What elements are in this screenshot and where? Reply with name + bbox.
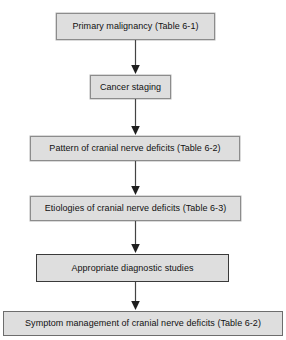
flow-node-label: Pattern of cranial nerve deficits (Table…: [49, 144, 220, 153]
flow-node-appropriate-diagnostic-studies[interactable]: Appropriate diagnostic studies: [36, 254, 229, 282]
flow-node-label: Cancer staging: [100, 83, 161, 92]
flow-node-label: Appropriate diagnostic studies: [71, 264, 193, 273]
flow-node-label: Etiologies of cranial nerve deficits (Ta…: [45, 204, 227, 213]
arrow-primary-malignancy-to-cancer-staging: [130, 40, 141, 75]
flow-node-etiologies-cranial-nerve-deficits[interactable]: Etiologies of cranial nerve deficits (Ta…: [30, 196, 241, 221]
arrow-cancer-staging-to-pattern: [130, 99, 141, 136]
flowchart-diagram: Primary malignancy (Table 6-1) Cancer st…: [0, 0, 286, 340]
flow-node-primary-malignancy[interactable]: Primary malignancy (Table 6-1): [56, 13, 215, 40]
arrow-pattern-to-etiologies: [130, 161, 141, 196]
flow-node-symptom-management[interactable]: Symptom management of cranial nerve defi…: [3, 311, 283, 336]
arrow-diagnostic-studies-to-symptom-management: [130, 282, 141, 311]
flow-node-label: Primary malignancy (Table 6-1): [72, 22, 198, 31]
flow-node-label: Symptom management of cranial nerve defi…: [25, 319, 261, 328]
flow-node-pattern-cranial-nerve-deficits[interactable]: Pattern of cranial nerve deficits (Table…: [30, 136, 240, 161]
flow-node-cancer-staging[interactable]: Cancer staging: [90, 75, 171, 99]
arrow-etiologies-to-diagnostic-studies: [130, 221, 141, 254]
